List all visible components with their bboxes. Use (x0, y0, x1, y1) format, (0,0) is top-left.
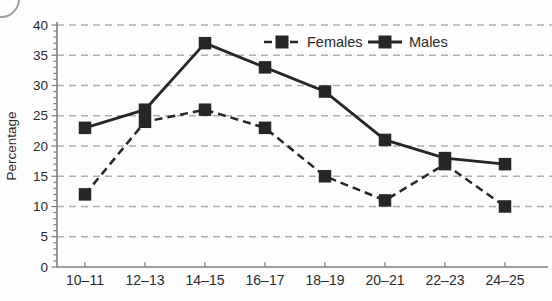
y-tick-label-15: 15 (33, 169, 48, 184)
males-marker-22–23 (439, 152, 452, 165)
legend-females-label: Females (307, 34, 363, 50)
y-tick-label-10: 10 (33, 199, 48, 214)
line-chart-figure: 051015202530354010–1112–1314–1516–1718–1… (0, 0, 552, 301)
x-tick-label: 20–21 (366, 272, 405, 288)
x-tick-label: 22–23 (426, 272, 465, 288)
males-marker-20–21 (379, 134, 392, 147)
y-tick-label-40: 40 (33, 18, 48, 33)
chart-plot-area: 051015202530354010–1112–1314–1516–1718–1… (4, 18, 552, 289)
males-marker-24–25 (499, 158, 512, 171)
males-marker-18–19 (319, 85, 332, 98)
y-axis-title: Percentage (4, 111, 19, 180)
legend-males-marker (379, 36, 392, 49)
males-marker-10–11 (79, 122, 92, 135)
y-tick-label-5: 5 (40, 229, 48, 244)
legend-males-label: Males (409, 34, 448, 50)
males-marker-12–13 (139, 103, 152, 116)
females-marker-20–21 (379, 194, 392, 207)
females-marker-18–19 (319, 170, 332, 183)
legend-females-marker (276, 36, 289, 49)
line-chart: 051015202530354010–1112–1314–1516–1718–1… (0, 0, 552, 301)
x-tick-label: 10–11 (66, 272, 104, 288)
males-marker-16–17 (259, 61, 272, 74)
females-marker-16–17 (259, 122, 272, 135)
x-tick-label: 12–13 (126, 272, 165, 288)
males-marker-14–15 (199, 37, 212, 50)
x-tick-label: 14–15 (186, 272, 225, 288)
y-tick-label-25: 25 (33, 108, 48, 123)
x-tick-label: 18–19 (306, 272, 345, 288)
y-tick-label-30: 30 (33, 78, 48, 93)
females-marker-12–13 (139, 116, 152, 129)
x-tick-label: 24–25 (486, 272, 525, 288)
females-marker-14–15 (199, 103, 212, 116)
y-tick-label-0: 0 (40, 260, 48, 275)
page-corner-artifact (0, 0, 19, 17)
females-marker-10–11 (79, 188, 92, 201)
axes (57, 22, 548, 267)
y-tick-label-35: 35 (33, 48, 48, 63)
females-marker-24–25 (499, 200, 512, 213)
y-tick-label-20: 20 (33, 139, 48, 154)
x-tick-label: 16–17 (246, 272, 285, 288)
